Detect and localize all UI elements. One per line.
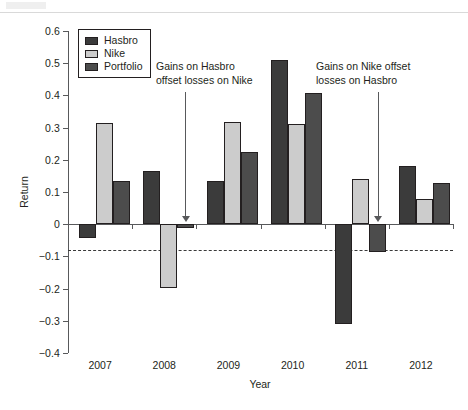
- y-tick: [63, 192, 68, 193]
- y-tick-label: −0.3: [39, 315, 60, 327]
- x-tick-label: 2010: [281, 359, 304, 371]
- bar-portfolio-2009: [241, 152, 258, 224]
- y-tick: [63, 160, 68, 161]
- x-tick-label: 2012: [409, 359, 432, 371]
- bar-hasbro-2009: [207, 181, 224, 224]
- scan-artifact: [6, 2, 46, 9]
- y-tick: [63, 63, 68, 64]
- y-tick: [63, 353, 68, 354]
- legend-item-nike: Nike: [85, 47, 143, 60]
- bar-hasbro-2012: [399, 166, 416, 224]
- y-tick: [63, 128, 68, 129]
- legend-item-hasbro: Hasbro: [85, 34, 143, 47]
- bar-hasbro-2010: [271, 60, 288, 224]
- y-tick-label: −0.4: [39, 347, 60, 359]
- chart-annotation: Gains on Nike offset losses on Hasbro: [316, 60, 410, 87]
- x-tick-label: 2008: [153, 359, 176, 371]
- x-tick-label: 2009: [217, 359, 240, 371]
- y-axis-line: [68, 31, 69, 353]
- y-tick-label: −0.2: [39, 283, 60, 295]
- x-tick: [453, 224, 454, 229]
- bar-hasbro-2008: [143, 171, 160, 224]
- y-tick-label: 0.4: [45, 89, 60, 101]
- legend-label: Hasbro: [104, 34, 138, 47]
- y-tick-label: 0.1: [45, 186, 60, 198]
- x-tick: [132, 224, 133, 229]
- page-rule: [0, 12, 468, 13]
- y-tick: [63, 95, 68, 96]
- bar-portfolio-2008: [177, 224, 194, 228]
- legend-label: Portfolio: [104, 60, 143, 73]
- y-tick-label: −0.1: [39, 250, 60, 262]
- y-tick: [63, 321, 68, 322]
- x-tick: [261, 224, 262, 229]
- x-tick: [325, 224, 326, 229]
- y-axis-title: Return: [18, 176, 30, 208]
- y-tick-label: 0.6: [45, 25, 60, 37]
- bar-nike-2012: [416, 199, 433, 224]
- x-tick-label: 2011: [345, 359, 368, 371]
- x-axis-title: Year: [249, 378, 270, 390]
- bar-hasbro-2007: [79, 224, 96, 238]
- chart-figure: Return Year 0.60.50.40.30.20.10−0.1−0.2−…: [0, 0, 468, 410]
- y-tick-label: 0.3: [45, 122, 60, 134]
- y-tick-label: 0: [54, 218, 60, 230]
- reference-line: [68, 250, 453, 251]
- y-tick-label: 0.2: [45, 154, 60, 166]
- bar-nike-2011: [352, 179, 369, 224]
- bar-portfolio-2010: [305, 93, 322, 224]
- legend-swatch-icon: [85, 63, 98, 71]
- y-tick: [63, 256, 68, 257]
- chart-annotation: Gains on Hasbro offset losses on Nike: [156, 60, 253, 87]
- bar-nike-2009: [224, 122, 241, 224]
- bar-portfolio-2011: [369, 224, 386, 252]
- chart-legend: Hasbro Nike Portfolio: [78, 29, 151, 78]
- bar-nike-2010: [288, 124, 305, 224]
- bar-portfolio-2012: [433, 183, 450, 225]
- legend-swatch-icon: [85, 50, 98, 58]
- y-tick: [63, 289, 68, 290]
- legend-item-portfolio: Portfolio: [85, 60, 143, 73]
- y-tick: [63, 31, 68, 32]
- x-tick: [68, 224, 69, 229]
- legend-swatch-icon: [85, 37, 98, 45]
- x-tick: [196, 224, 197, 229]
- y-tick-label: 0.5: [45, 57, 60, 69]
- bar-nike-2007: [96, 123, 113, 224]
- legend-label: Nike: [104, 47, 125, 60]
- x-tick: [389, 224, 390, 229]
- bar-nike-2008: [160, 224, 177, 288]
- x-tick-label: 2007: [88, 359, 111, 371]
- bar-portfolio-2007: [113, 181, 130, 224]
- bar-hasbro-2011: [335, 224, 352, 324]
